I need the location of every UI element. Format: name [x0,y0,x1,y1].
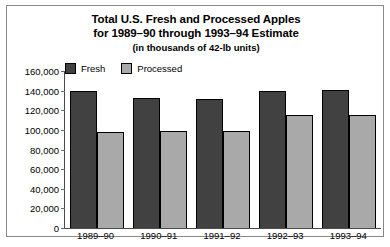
y-axis-tick-label: 140,000 [25,85,59,96]
chart-title-block: Total U.S. Fresh and Processed Apples fo… [7,12,385,54]
y-axis-tick-label: 40,000 [30,183,59,194]
bar-group [133,71,187,228]
y-axis-tick-label: 160,000 [25,66,59,77]
bar-fresh [70,91,97,228]
x-axis-labels: 1989–901990–911991–921992–931993–94 [64,230,380,241]
chart-subtitle: (in thousands of 42-lb units) [7,41,385,54]
y-axis-tick-label: 20,000 [30,203,59,214]
x-axis-category-label: 1990–91 [129,230,189,241]
bar-group [322,71,376,228]
y-axis-tick-label: 100,000 [25,124,59,135]
chart-title-line-1: Total U.S. Fresh and Processed Apples [7,12,385,26]
bar-processed [223,131,250,228]
chart-figure: Total U.S. Fresh and Processed Apples fo… [0,0,390,247]
bar-processed [97,132,124,228]
chart-title-line-2: for 1989–90 through 1993–94 Estimate [7,26,385,40]
bar-fresh [259,91,286,228]
y-axis-tick-label: 80,000 [30,144,59,155]
bar-fresh [133,98,160,228]
plot-area: 160,000140,000120,000100,00080,00060,000… [64,71,381,229]
bar-processed [349,115,376,228]
bar-processed [286,115,313,228]
chart-frame: Total U.S. Fresh and Processed Apples fo… [6,5,384,237]
x-axis-category-label: 1992–93 [255,230,315,241]
y-axis-tick-label: 0 [54,223,59,234]
bar-processed [160,131,187,228]
bar-fresh [196,99,223,228]
bar-group [70,71,124,228]
y-axis-tick-label: 120,000 [25,105,59,116]
bar-fresh [322,90,349,228]
x-axis-category-label: 1993–94 [318,230,378,241]
y-axis-tick-label: 60,000 [30,164,59,175]
bar-group [196,71,250,228]
x-axis-category-label: 1991–92 [192,230,252,241]
y-axis-tick [61,228,65,229]
x-axis-category-label: 1989–90 [66,230,126,241]
bar-groups [65,71,381,228]
bar-group [259,71,313,228]
